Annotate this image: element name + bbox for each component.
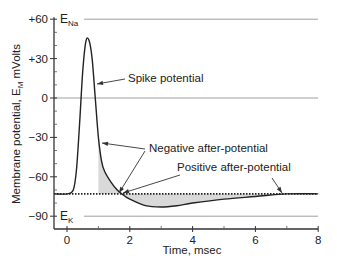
chart-canvas: ENaEK +60+300−30−60−9002468 Spike potent…: [0, 0, 337, 263]
e-k-label: EK: [60, 209, 74, 225]
y-tick-label: −30: [28, 131, 48, 143]
axes: +60+300−30−60−9002468: [28, 13, 321, 246]
y-tick-label: +30: [28, 53, 48, 65]
reference-lines: ENaEK: [54, 12, 318, 225]
x-tick-label: 0: [64, 234, 70, 246]
x-axis-label: Time, msec: [163, 244, 222, 256]
negative-after-potential-label: Negative after-potential: [149, 142, 268, 154]
spike-potential-label: Spike potential: [128, 72, 203, 84]
y-tick-label: −60: [28, 171, 48, 183]
shaded-region: [98, 137, 120, 193]
shaded-region: [120, 193, 286, 207]
action-potential-chart: ENaEK +60+300−30−60−9002468 Spike potent…: [0, 0, 337, 263]
arrowhead-icon: [119, 187, 124, 193]
y-axis-label: Membrane potential, EM mVolts: [10, 44, 25, 204]
positive-after-potential-label: Positive after-potential: [177, 161, 291, 173]
arrowhead-icon: [102, 142, 108, 146]
e-na-label: ENa: [60, 12, 79, 28]
action-potential-curve: [55, 38, 318, 207]
positive-arrow-1: [123, 175, 180, 193]
arrowhead-icon: [277, 187, 282, 193]
x-tick-label: 6: [252, 234, 258, 246]
negative-arrow-1: [102, 143, 145, 149]
negative-arrow-2: [119, 151, 145, 193]
annotations: Spike potentialNegative after-potentialP…: [97, 72, 291, 193]
arrowhead-icon: [123, 189, 129, 193]
x-tick-label: 8: [315, 234, 321, 246]
y-tick-label: −90: [28, 210, 48, 222]
y-tick-label: +60: [28, 13, 48, 25]
arrowhead-icon: [97, 81, 103, 85]
y-tick-label: 0: [42, 92, 48, 104]
x-tick-label: 2: [127, 234, 133, 246]
